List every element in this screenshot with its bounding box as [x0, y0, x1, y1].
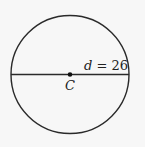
- circle-diagram: C d = 26: [0, 0, 145, 147]
- center-label: C: [65, 78, 75, 93]
- center-point: [68, 72, 73, 77]
- diameter-label: d = 26: [84, 58, 128, 73]
